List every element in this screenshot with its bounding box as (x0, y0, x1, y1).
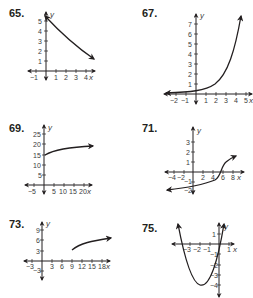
svg-text:6: 6 (188, 31, 192, 38)
curve-71 (167, 156, 236, 190)
svg-text:10: 10 (33, 162, 41, 169)
svg-text:y: y (199, 11, 205, 20)
svg-text:−4: −4 (210, 282, 218, 289)
graph-65: −11234 x 12345 y (28, 10, 95, 82)
svg-text:−1: −1 (184, 178, 192, 185)
svg-text:x: x (105, 262, 111, 271)
svg-text:5: 5 (52, 188, 56, 195)
svg-text:y: y (47, 123, 53, 132)
svg-text:2: 2 (186, 149, 190, 156)
svg-text:−1: −1 (30, 74, 38, 81)
svg-text:x: x (86, 187, 92, 196)
svg-text:3: 3 (38, 38, 42, 45)
graph-69: −55101520 x 510152025 y (25, 123, 93, 196)
svg-text:2: 2 (64, 74, 68, 81)
svg-text:2: 2 (201, 174, 205, 181)
svg-text:25: 25 (33, 131, 41, 138)
svg-text:5: 5 (188, 41, 192, 48)
svg-text:4: 4 (84, 74, 88, 81)
svg-text:15: 15 (33, 152, 41, 159)
svg-text:9: 9 (36, 227, 40, 234)
svg-text:5: 5 (244, 97, 248, 104)
svg-text:−1: −1 (181, 97, 189, 104)
curve-67 (166, 16, 241, 93)
svg-text:−3: −3 (33, 267, 41, 274)
svg-text:5: 5 (38, 172, 42, 179)
svg-text:y: y (45, 219, 51, 228)
svg-text:9: 9 (70, 263, 74, 270)
svg-text:4: 4 (38, 28, 42, 35)
svg-text:x: x (232, 245, 238, 254)
svg-text:−2: −2 (170, 97, 178, 104)
svg-text:y: y (49, 10, 55, 19)
graph-71: −4−22468 x 123−1−2 y (165, 126, 244, 194)
svg-text:4: 4 (188, 51, 192, 58)
graphs-canvas: −11234 x 12345 y −2−112345 x 1234567 y −… (0, 0, 253, 298)
svg-text:20: 20 (33, 141, 41, 148)
svg-text:1: 1 (38, 58, 42, 65)
graph-67: −2−112345 x 1234567 y (164, 11, 253, 105)
svg-text:6: 6 (60, 263, 64, 270)
svg-text:15: 15 (88, 263, 96, 270)
svg-text:5: 5 (38, 18, 42, 25)
svg-text:20: 20 (79, 188, 87, 195)
svg-text:3: 3 (74, 74, 78, 81)
svg-text:1: 1 (186, 159, 190, 166)
svg-text:15: 15 (69, 188, 77, 195)
svg-text:−4: −4 (168, 174, 176, 181)
svg-text:1: 1 (227, 246, 231, 253)
svg-text:6: 6 (221, 174, 225, 181)
svg-text:−2: −2 (193, 246, 201, 253)
svg-text:3: 3 (188, 61, 192, 68)
svg-text:x: x (248, 96, 253, 105)
curve-73 (72, 238, 111, 250)
svg-text:8: 8 (231, 174, 235, 181)
svg-text:7: 7 (188, 21, 192, 28)
svg-text:4: 4 (234, 97, 238, 104)
curve-69 (45, 146, 93, 155)
svg-text:2: 2 (214, 97, 218, 104)
svg-text:y: y (196, 126, 202, 135)
graph-73: −3369121518 x 369−3 y (24, 219, 111, 280)
svg-text:18: 18 (98, 263, 106, 270)
svg-text:1: 1 (188, 81, 192, 88)
svg-text:3: 3 (50, 263, 54, 270)
svg-text:−5: −5 (28, 188, 36, 195)
svg-text:2: 2 (188, 71, 192, 78)
svg-text:1: 1 (212, 231, 216, 238)
svg-text:x: x (88, 73, 94, 82)
svg-text:3: 3 (186, 139, 190, 146)
svg-text:x: x (236, 173, 242, 182)
svg-text:1: 1 (204, 97, 208, 104)
svg-text:3: 3 (224, 97, 228, 104)
svg-text:12: 12 (78, 263, 86, 270)
curve-65 (45, 16, 94, 59)
svg-text:3: 3 (36, 248, 40, 255)
svg-text:6: 6 (36, 237, 40, 244)
graph-75: −3−2−11 x 1−1−2−3−4 y (172, 222, 238, 297)
svg-text:1: 1 (54, 74, 58, 81)
svg-text:2: 2 (38, 48, 42, 55)
svg-text:10: 10 (59, 188, 67, 195)
